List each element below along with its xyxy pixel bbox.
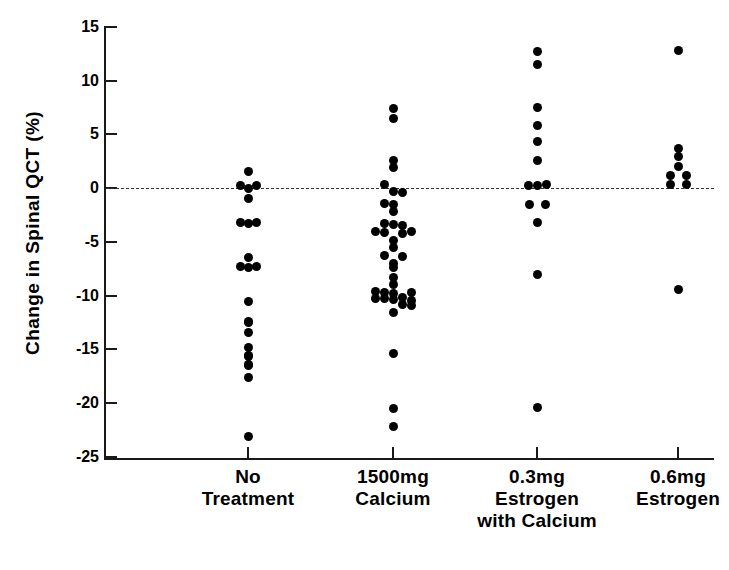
data-point — [525, 200, 534, 209]
data-point — [682, 180, 691, 189]
data-point — [674, 46, 683, 55]
data-point — [244, 361, 253, 370]
x-tick-1 — [392, 447, 394, 458]
data-point — [389, 263, 398, 272]
data-point — [371, 294, 380, 303]
data-point — [674, 152, 683, 161]
data-point — [533, 270, 542, 279]
data-point — [244, 184, 253, 193]
data-point — [407, 227, 416, 236]
data-point — [380, 199, 389, 208]
data-point — [252, 262, 261, 271]
data-point — [244, 297, 253, 306]
data-point — [666, 180, 675, 189]
data-point — [674, 162, 683, 171]
data-point — [542, 180, 551, 189]
data-point — [252, 181, 261, 190]
data-point — [389, 207, 398, 216]
data-point — [244, 328, 253, 337]
x-group-label-3: 0.6mgEstrogen — [583, 466, 729, 510]
data-point — [398, 188, 407, 197]
data-point — [389, 220, 398, 229]
data-point — [533, 403, 542, 412]
x-group-label-line: Estrogen — [583, 488, 729, 510]
data-point — [380, 180, 389, 189]
data-point — [389, 349, 398, 358]
data-point — [541, 200, 550, 209]
data-point — [380, 219, 389, 228]
data-point — [398, 252, 407, 261]
scatter-chart: Change in Spinal QCT (%) 151050-5-10-15-… — [0, 0, 729, 570]
data-point — [533, 103, 542, 112]
data-point — [398, 229, 407, 238]
data-point — [389, 187, 398, 196]
x-tick-0 — [247, 447, 249, 458]
data-point — [533, 47, 542, 56]
data-point — [244, 318, 253, 327]
data-point — [244, 352, 253, 361]
data-point — [244, 219, 253, 228]
data-point — [252, 218, 261, 227]
data-point — [380, 251, 389, 260]
data-point — [389, 104, 398, 113]
data-point — [533, 218, 542, 227]
data-point — [380, 228, 389, 237]
data-point — [682, 171, 691, 180]
data-point — [389, 114, 398, 123]
data-point — [407, 296, 416, 305]
x-group-label-line: with Calcium — [442, 510, 632, 532]
data-point — [244, 194, 253, 203]
data-point — [533, 121, 542, 130]
data-point — [244, 432, 253, 441]
data-point — [371, 227, 380, 236]
x-tick-3 — [677, 447, 679, 458]
data-point — [398, 300, 407, 309]
data-point — [389, 422, 398, 431]
data-point — [389, 404, 398, 413]
data-point — [389, 295, 398, 304]
data-point — [244, 373, 253, 382]
data-point — [674, 285, 683, 294]
data-point — [533, 137, 542, 146]
data-point — [244, 263, 253, 272]
data-point — [524, 181, 533, 190]
x-tick-2 — [536, 447, 538, 458]
data-point — [666, 171, 675, 180]
data-point — [244, 167, 253, 176]
data-point — [380, 294, 389, 303]
data-point — [533, 156, 542, 165]
data-point — [389, 243, 398, 252]
data-point — [533, 181, 542, 190]
x-group-label-line: 0.6mg — [583, 466, 729, 488]
data-point — [533, 60, 542, 69]
data-point — [389, 163, 398, 172]
data-point — [244, 253, 253, 262]
data-point — [389, 308, 398, 317]
data-point — [389, 280, 398, 289]
